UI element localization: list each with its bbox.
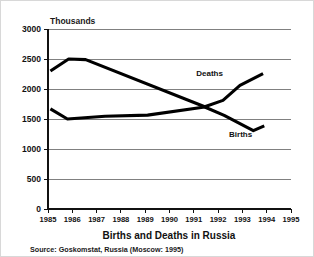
x-tick-label-1995: 1995 xyxy=(283,215,301,224)
x-tick-label-1993: 1993 xyxy=(234,215,251,224)
y-tick-labels: 3000 2500 2000 1500 1000 500 0 xyxy=(22,24,41,214)
source-note: Source: Goskomstat, Russia (Moscow: 1995… xyxy=(30,245,184,254)
x-tick-labels: 1985 1986 1987 1988 1989 1990 1991 1992 … xyxy=(40,215,301,224)
y-tick-label-2500: 2500 xyxy=(22,54,41,64)
series-label-births: Births xyxy=(229,130,253,139)
y-axis-unit-label: Thousands xyxy=(50,16,96,26)
x-tick-label-1985: 1985 xyxy=(40,215,58,224)
x-tick-marks xyxy=(48,209,291,213)
series-label-deaths: Deaths xyxy=(196,69,223,78)
x-tick-label-1990: 1990 xyxy=(161,215,178,224)
y-tick-label-1500: 1500 xyxy=(22,114,41,124)
x-tick-label-1994: 1994 xyxy=(258,215,276,224)
x-tick-label-1992: 1992 xyxy=(210,215,227,224)
x-tick-label-1988: 1988 xyxy=(112,215,129,224)
chart-figure: Thousands 3000 2500 2000 1500 1000 500 0… xyxy=(0,0,314,257)
y-tick-label-1000: 1000 xyxy=(22,144,41,154)
x-tick-label-1989: 1989 xyxy=(137,215,154,224)
x-tick-label-1986: 1986 xyxy=(64,215,81,224)
y-tick-label-2000: 2000 xyxy=(22,84,41,94)
chart-title: Births and Deaths in Russia xyxy=(103,230,236,241)
y-tick-label-3000: 3000 xyxy=(22,24,41,34)
y-tick-label-500: 500 xyxy=(27,174,41,184)
x-tick-label-1991: 1991 xyxy=(185,215,203,224)
x-tick-label-1987: 1987 xyxy=(88,215,105,224)
line-chart: Thousands 3000 2500 2000 1500 1000 500 0… xyxy=(1,1,314,257)
y-tick-label-0: 0 xyxy=(36,204,41,214)
